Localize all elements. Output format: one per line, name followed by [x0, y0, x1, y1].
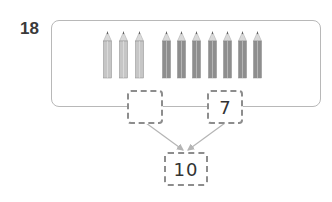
left-part-box[interactable]	[127, 90, 163, 124]
right-part-box: 7	[207, 90, 243, 124]
whole-value: 10	[174, 159, 199, 180]
right-part-value: 7	[219, 97, 230, 118]
whole-box: 10	[164, 152, 208, 186]
